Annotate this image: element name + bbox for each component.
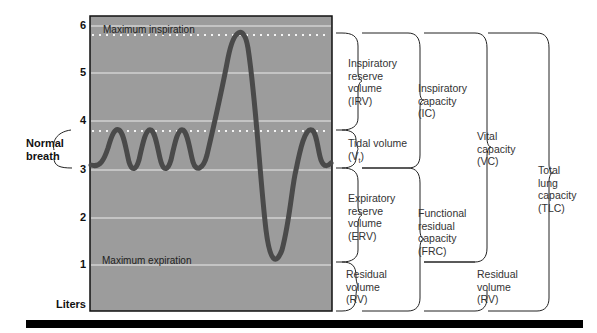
tv-line1: Tidal volume xyxy=(348,137,407,150)
vc-line2: capacity xyxy=(477,143,516,156)
axis-ticks xyxy=(336,33,342,311)
erv-line3: volume xyxy=(348,217,395,230)
normal-breath-bracket xyxy=(54,130,72,168)
ic-line1: Inspiratory xyxy=(418,82,467,95)
tidal-volume-label: Tidal volume (Vt) xyxy=(348,137,407,167)
rv2-line1: Residual xyxy=(477,268,518,281)
rv2-abbr: (RV) xyxy=(477,293,518,306)
rv-abbr: (RV) xyxy=(346,293,387,306)
tlc-line1: Total xyxy=(538,164,577,177)
tv-abbr: (Vt) xyxy=(348,150,407,168)
rv-line1: Residual xyxy=(346,268,387,281)
tlc-label: Total lung capacity (TLC) xyxy=(538,164,577,214)
erv-abbr: (ERV) xyxy=(348,230,395,243)
tlc-abbr: (TLC) xyxy=(538,202,577,215)
ic-abbr: (IC) xyxy=(418,107,467,120)
irv-line2: reserve xyxy=(348,70,397,83)
vc-label: Vital capacity (VC) xyxy=(477,130,516,168)
irv-label: Inspiratory reserve volume (IRV) xyxy=(348,57,397,107)
tlc-line3: capacity xyxy=(538,189,577,202)
max-expiration-label: Maximum expiration xyxy=(102,255,191,266)
vc-abbr: (VC) xyxy=(477,155,516,168)
erv-line2: reserve xyxy=(348,205,395,218)
rv2-label: Residual volume (RV) xyxy=(477,268,518,306)
rv-label: Residual volume (RV) xyxy=(346,268,387,306)
frc-line2: residual xyxy=(418,220,466,233)
vc-line1: Vital xyxy=(477,130,516,143)
rv2-line2: volume xyxy=(477,281,518,294)
bottom-rule xyxy=(26,320,583,328)
erv-label: Expiratory reserve volume (ERV) xyxy=(348,192,395,242)
tv-abbr-end: ) xyxy=(360,150,364,162)
frc-label: Functional residual capacity (FRC) xyxy=(418,207,466,257)
erv-line1: Expiratory xyxy=(348,192,395,205)
max-inspiration-label: Maximum inspiration xyxy=(103,24,195,35)
frc-line1: Functional xyxy=(418,207,466,220)
frc-line3: capacity xyxy=(418,232,466,245)
irv-line1: Inspiratory xyxy=(348,57,397,70)
ic-label: Inspiratory capacity (IC) xyxy=(418,82,467,120)
irv-line3: volume xyxy=(348,82,397,95)
irv-abbr: (IRV) xyxy=(348,95,397,108)
tv-abbr-v: (V xyxy=(348,150,359,162)
ic-line2: capacity xyxy=(418,95,467,108)
rv-line2: volume xyxy=(346,281,387,294)
frc-abbr: (FRC) xyxy=(418,245,466,258)
tlc-line2: lung xyxy=(538,177,577,190)
